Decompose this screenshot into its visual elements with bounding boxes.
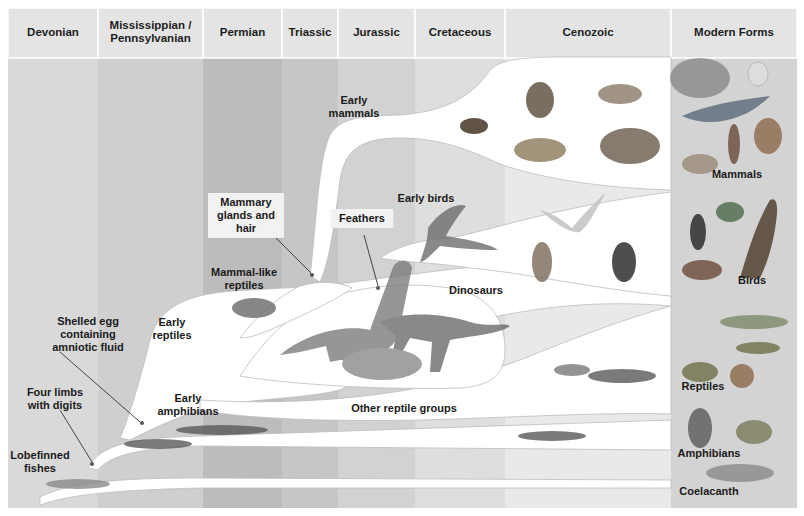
snake-illustration (730, 364, 754, 388)
modern-form-label: Reptiles (682, 380, 725, 392)
period-label: Jurassic (353, 26, 400, 38)
mammoth-illustration (600, 128, 660, 164)
branch-label-four-limbs-with-digits: Four limbswith digits (27, 386, 83, 411)
cynodont-illustration (232, 298, 276, 318)
human-illustration (728, 124, 740, 164)
period-label: Mississippian /Pennsylvanian (110, 19, 193, 44)
branch-label-other-reptile-groups: Other reptile groups (351, 402, 457, 414)
modern-form-label: Coelacanth (679, 485, 739, 497)
modern-form-label: Mammals (712, 168, 762, 180)
early-amphibian-illustration-1 (124, 439, 192, 449)
tapir-illustration (514, 138, 566, 162)
period-label: Permian (220, 26, 265, 38)
crocodile-illustration (720, 315, 788, 329)
elephant-illustration (670, 58, 730, 98)
bear-illustration (598, 84, 642, 104)
pheasant-illustration (682, 260, 722, 280)
period-label: Cretaceous (429, 26, 492, 38)
branch-label-feathers: Feathers (339, 212, 385, 224)
modern-form-label: Birds (738, 274, 766, 286)
diagram-canvas: DevonianMississippian /PennsylvanianPerm… (0, 0, 804, 516)
vertebrate-evolution-diagram: DevonianMississippian /PennsylvanianPerm… (0, 0, 804, 516)
period-label: Cenozoic (562, 26, 614, 38)
triceratops-illustration (342, 348, 422, 380)
period-label: Modern Forms (694, 26, 774, 38)
early-amphibian-illustration-2 (176, 425, 268, 435)
modern-form-label: Amphibians (678, 447, 741, 459)
period-column (8, 58, 98, 508)
salamander-illustration (518, 431, 586, 441)
period-label: Triassic (289, 26, 332, 38)
monkey-illustration (526, 82, 554, 118)
branch-label-shelled-egg: Shelled eggcontainingamniotic fluid (52, 315, 124, 353)
coelacanth-illustration (706, 464, 774, 482)
modern-salamander-illustration (688, 408, 712, 448)
lobefinned-fish-illustration (46, 479, 110, 489)
period-headers: DevonianMississippian /PennsylvanianPerm… (8, 8, 797, 58)
frog-illustration (736, 420, 772, 444)
other-reptile-illustration (588, 369, 656, 383)
deer-illustration (754, 118, 782, 154)
branch-label-dinosaurs: Dinosaurs (449, 284, 503, 296)
modern-lizard-illustration (736, 342, 780, 354)
owl-illustration (532, 242, 552, 282)
branch-label-early-birds: Early birds (398, 192, 455, 204)
penguin-illustration (690, 214, 706, 250)
rabbit-illustration (748, 62, 768, 86)
period-label: Devonian (27, 26, 79, 38)
turtle-illustration (682, 362, 718, 382)
parrots-illustration (716, 202, 744, 222)
lizard-illustration (554, 364, 590, 376)
shrew-illustration (460, 118, 488, 134)
puffin-illustration (612, 242, 636, 282)
